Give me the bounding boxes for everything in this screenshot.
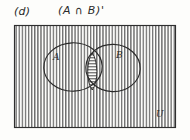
- set-b-label: B: [115, 50, 123, 60]
- set-a-label: A: [52, 52, 60, 62]
- universe-label: U: [156, 109, 164, 119]
- venn-diagram-figure: (d) (A ∩ B)': [0, 0, 190, 140]
- venn-diagram-canvas: A B U: [0, 0, 190, 140]
